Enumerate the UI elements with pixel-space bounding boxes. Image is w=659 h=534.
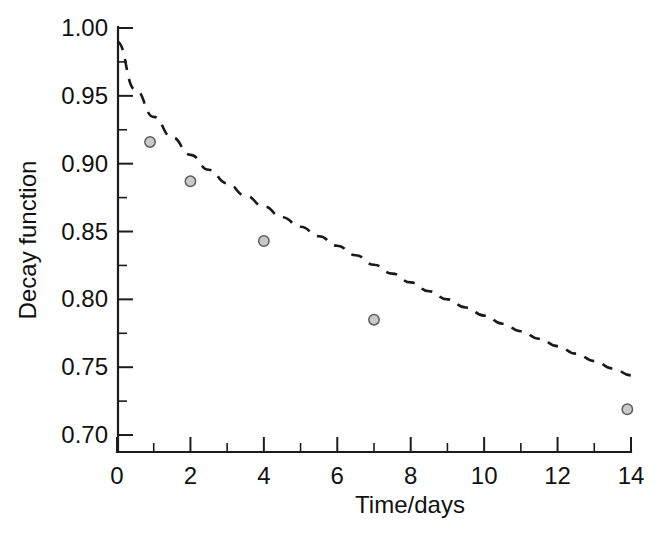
y-axis-tick-labels: 0.700.750.800.850.900.951.00 bbox=[61, 14, 108, 448]
x-axis-tick-labels: 02468101214 bbox=[110, 462, 644, 489]
y-tick-label: 0.70 bbox=[61, 421, 108, 448]
decay-function-plot: 0.700.750.800.850.900.951.00 02468101214… bbox=[0, 0, 659, 534]
x-tick-label: 10 bbox=[471, 462, 498, 489]
y-tick-label: 0.85 bbox=[61, 218, 108, 245]
x-tick-label: 4 bbox=[257, 462, 270, 489]
x-tick-label: 6 bbox=[331, 462, 344, 489]
x-tick-label: 2 bbox=[184, 462, 197, 489]
y-tick-label: 0.75 bbox=[61, 353, 108, 380]
y-tick-label: 0.95 bbox=[61, 82, 108, 109]
x-tick-label: 12 bbox=[544, 462, 571, 489]
chart-figure: 0.700.750.800.850.900.951.00 02468101214… bbox=[0, 0, 659, 534]
axis-lines bbox=[117, 27, 631, 452]
y-tick-label: 0.80 bbox=[61, 285, 108, 312]
x-tick-label: 0 bbox=[110, 462, 123, 489]
data-point-marker bbox=[369, 315, 379, 325]
data-point-marker bbox=[185, 176, 195, 186]
data-point-marker bbox=[622, 404, 632, 414]
x-axis-title: Time/days bbox=[355, 491, 465, 518]
data-point-marker bbox=[145, 137, 155, 147]
y-tick-label: 0.90 bbox=[61, 150, 108, 177]
data-point-marker bbox=[259, 236, 269, 246]
y-axis-title: Decay function bbox=[14, 161, 41, 320]
y-tick-label: 1.00 bbox=[61, 14, 108, 41]
y-axis-ticks bbox=[118, 28, 133, 435]
x-tick-label: 8 bbox=[404, 462, 417, 489]
x-tick-label: 14 bbox=[618, 462, 645, 489]
x-axis-ticks bbox=[117, 437, 631, 452]
